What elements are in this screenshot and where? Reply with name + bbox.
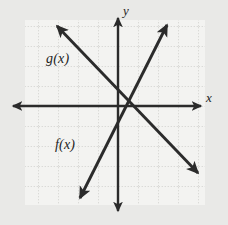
x-axis-label: x [206, 90, 212, 106]
function-label-g: g(x) [46, 51, 69, 67]
grid-lines [25, 20, 205, 205]
function-label-f: f(x) [55, 137, 75, 153]
y-axis-label: y [123, 3, 129, 19]
graph-figure: g(x) f(x) y x [0, 0, 228, 225]
coordinate-plane-svg [0, 0, 228, 225]
